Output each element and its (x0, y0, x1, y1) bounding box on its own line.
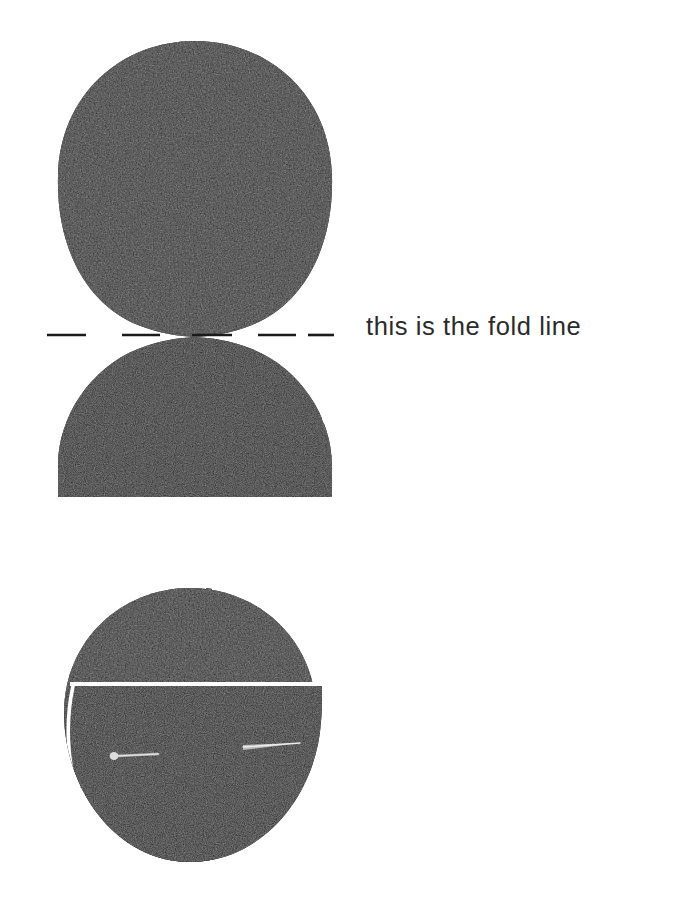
figure-folded (64, 588, 322, 862)
pin-left-head (110, 752, 119, 760)
fold-line-label: this is the fold line (366, 314, 656, 340)
diagram-canvas (0, 0, 681, 909)
figure-unfolded (47, 41, 334, 497)
diagram-page: this is the fold line (0, 0, 681, 909)
